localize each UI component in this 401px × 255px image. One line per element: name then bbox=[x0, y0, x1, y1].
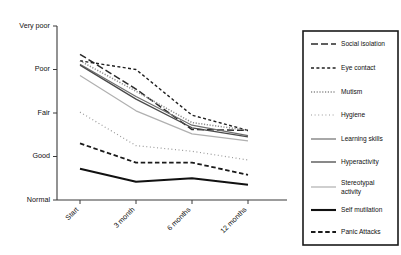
series-line bbox=[80, 61, 248, 131]
legend-label-8: Self mutilation bbox=[341, 206, 383, 213]
legend-label-9: Panic Attacks bbox=[341, 228, 381, 235]
legend-label-7-cont: activity bbox=[341, 188, 362, 196]
series-line bbox=[80, 65, 248, 137]
line-chart: Very poorPoorFairGoodNormal Start3 month… bbox=[0, 0, 401, 255]
legend-label-7: Stereotypal bbox=[341, 179, 375, 187]
y-axis-tick-label: Normal bbox=[27, 195, 51, 204]
legend-label-2: Eye contact bbox=[341, 64, 376, 72]
x-axis-tick-label: 3 month bbox=[112, 205, 137, 230]
series-lines bbox=[80, 54, 248, 185]
legend-label-6: Hyperactivity bbox=[341, 158, 379, 166]
y-axis-tick-label: Fair bbox=[38, 108, 51, 117]
x-axis-tick-label: Start bbox=[63, 205, 80, 222]
legend-label-4: Hygiene bbox=[341, 111, 366, 119]
x-axis-tick-label: 6 months bbox=[165, 205, 193, 233]
x-axis-tick-label: 12 months bbox=[218, 205, 248, 235]
legend-label-3: Mutism bbox=[341, 88, 363, 95]
series-line bbox=[80, 112, 248, 160]
chart-legend: Social isolationEye contactMutismHygiene… bbox=[303, 31, 398, 245]
x-axis: Start3 month6 months12 months bbox=[57, 200, 287, 235]
legend-label-5: Learning skills bbox=[341, 135, 383, 143]
y-axis: Very poorPoorFairGoodNormal bbox=[19, 21, 57, 204]
series-line bbox=[80, 61, 248, 131]
y-axis-tick-label: Poor bbox=[35, 64, 51, 73]
chart-canvas: Very poorPoorFairGoodNormal Start3 month… bbox=[0, 0, 401, 255]
y-axis-tick-label: Good bbox=[32, 151, 50, 160]
series-line bbox=[80, 143, 248, 174]
y-axis-tick-label: Very poor bbox=[19, 21, 50, 30]
legend-label-1: Social isolation bbox=[341, 40, 385, 47]
series-line bbox=[80, 169, 248, 185]
